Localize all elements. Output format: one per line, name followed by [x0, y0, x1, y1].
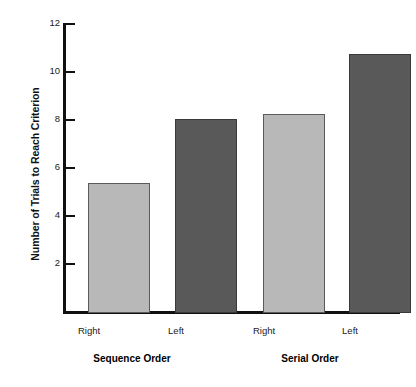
y-tick-8	[66, 119, 75, 121]
plot-area: 12 10 8 6 4 2	[63, 20, 400, 316]
y-tick-label-6: 6	[36, 162, 60, 172]
bar-serial-right	[263, 114, 325, 313]
x-label-serial-left: Left	[319, 325, 381, 336]
bar-serial-left	[349, 54, 411, 313]
y-tick-label-10: 10	[36, 66, 60, 76]
y-tick-label-4: 4	[36, 210, 60, 220]
x-label-sequence-right: Right	[58, 325, 120, 336]
y-tick-label-8: 8	[36, 114, 60, 124]
bar-sequence-left	[175, 119, 237, 313]
group-label-serial-order: Serial Order	[250, 353, 370, 364]
y-tick-4	[66, 215, 75, 217]
bar-chart: Number of Trials to Reach Criterion 12 1…	[0, 0, 416, 387]
y-tick-6	[66, 167, 75, 169]
x-label-sequence-left: Left	[145, 325, 207, 336]
x-label-serial-right: Right	[233, 325, 295, 336]
group-label-sequence-order: Sequence Order	[72, 353, 192, 364]
bar-sequence-right	[88, 183, 150, 313]
y-axis-line	[63, 23, 66, 314]
y-tick-label-2: 2	[36, 258, 60, 268]
y-tick-10	[66, 71, 75, 73]
y-tick-2	[66, 263, 75, 265]
y-tick-label-12: 12	[36, 18, 60, 28]
y-tick-12	[66, 23, 75, 25]
